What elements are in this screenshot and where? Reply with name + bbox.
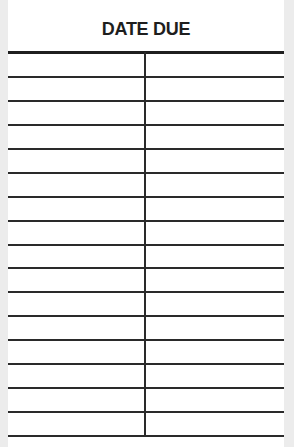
row-rule	[8, 148, 284, 150]
row-rule	[8, 100, 284, 102]
row-rule	[8, 363, 284, 365]
date-due-card: DATE DUE	[8, 0, 284, 447]
row-rule	[8, 315, 284, 317]
row-rule	[8, 220, 284, 222]
row-rule	[8, 244, 284, 246]
row-rule	[8, 124, 284, 126]
row-rule	[8, 387, 284, 389]
row-rule	[8, 172, 284, 174]
card-title: DATE DUE	[8, 18, 284, 40]
row-rule	[8, 411, 284, 413]
header-rule	[8, 51, 284, 54]
card-edge-right	[284, 0, 294, 447]
row-rule	[8, 435, 284, 437]
row-rule	[8, 196, 284, 198]
row-rule	[8, 339, 284, 341]
row-rule	[8, 267, 284, 269]
row-rule	[8, 76, 284, 78]
card-edge-left	[0, 0, 8, 447]
row-rule	[8, 291, 284, 293]
